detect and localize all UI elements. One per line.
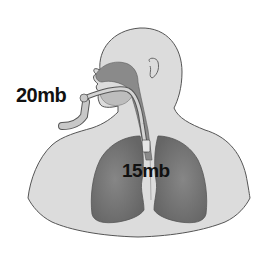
tube-port [80,94,88,102]
upper-pressure-label: 20mb [16,84,66,107]
respiratory-diagram [0,0,276,253]
tube-cuff [142,140,150,152]
lower-pressure-label: 15mb [122,160,170,182]
